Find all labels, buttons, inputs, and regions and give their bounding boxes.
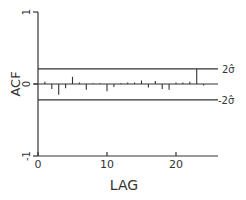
x-tick-label: 20: [169, 158, 183, 171]
axis-labels: ACF LAG 2σ̂ -2σ̂: [8, 64, 235, 193]
x-axis-label: LAG: [110, 177, 138, 193]
x-tick-label: 0: [35, 158, 42, 171]
x-tick-label: 10: [100, 158, 114, 171]
y-tick-label: -1: [21, 151, 32, 161]
acf-chart: -10101020 ACF LAG 2σ̂ -2σ̂: [0, 0, 246, 200]
upper-bound-label: 2σ̂: [222, 64, 235, 75]
y-axis-label: ACF: [8, 71, 23, 96]
axes: -10101020: [21, 9, 218, 171]
acf-spikes: [45, 69, 204, 95]
lower-bound-label: -2σ̂: [218, 95, 235, 106]
y-tick-label: 1: [21, 9, 32, 15]
